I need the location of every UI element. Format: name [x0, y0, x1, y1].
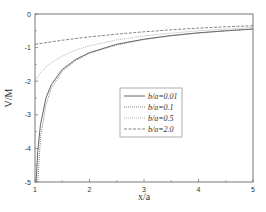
- y-axis: 0-1-2-3-4-5: [25, 11, 38, 186]
- legend-label: b/a=0.1: [148, 103, 174, 112]
- y-tick-label: -1: [25, 44, 31, 51]
- x-tick-label: 1: [33, 186, 37, 193]
- x-tick-label: 2: [88, 186, 92, 193]
- y-tick-label: -2: [25, 78, 31, 85]
- series-line: [35, 26, 253, 44]
- series-line: [35, 27, 253, 81]
- legend-label: b/a=0.5: [148, 114, 174, 123]
- x-axis-title: x/a: [138, 191, 151, 202]
- legend-label: b/a=2.0: [148, 125, 174, 134]
- line-chart: 0-1-2-3-4-5 12345 V/M x/a b/a=0.01b/a=0.…: [0, 0, 266, 212]
- x-tick-label: 5: [251, 186, 255, 193]
- y-axis-title: V/M: [3, 88, 14, 107]
- legend: b/a=0.01b/a=0.1b/a=0.5b/a=2.0: [120, 88, 182, 137]
- y-tick-label: 0: [27, 11, 31, 18]
- y-tick-label: -4: [25, 145, 31, 152]
- legend-label: b/a=0.01: [148, 92, 178, 101]
- y-tick-label: -3: [25, 111, 31, 118]
- x-tick-label: 4: [197, 186, 201, 193]
- y-tick-label: -5: [25, 179, 31, 186]
